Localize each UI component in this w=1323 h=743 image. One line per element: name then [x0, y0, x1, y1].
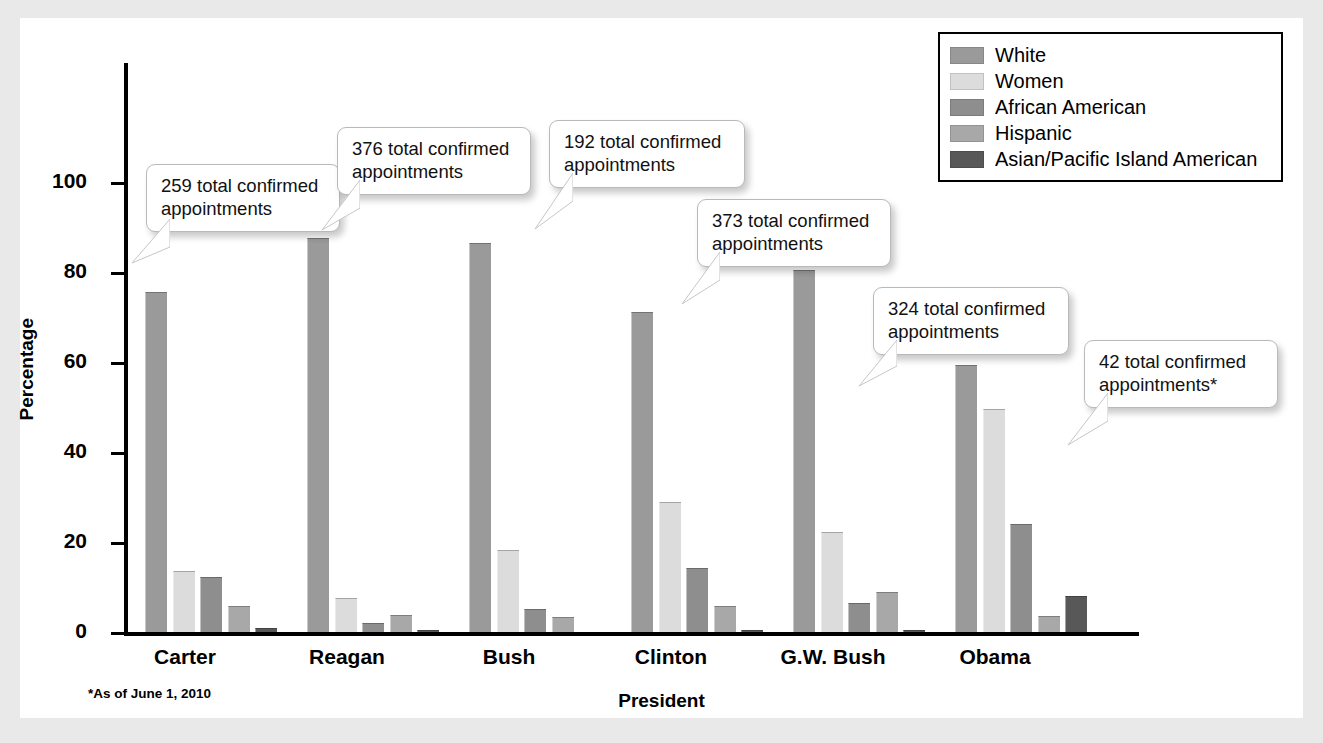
legend-swatch-asian-pacific-island-american-icon [950, 151, 984, 168]
bar-reagan-women [335, 598, 357, 632]
y-tick-100 [111, 182, 124, 185]
bar-obama-white [955, 365, 977, 632]
bar-reagan-african-american [362, 623, 384, 632]
legend-label-asian-pacific-island-american: Asian/Pacific Island American [995, 148, 1257, 171]
y-tick-0 [111, 632, 124, 635]
bar-carter-white [145, 292, 167, 632]
y-axis-title: Percentage [16, 318, 38, 420]
x-axis-line [124, 632, 1139, 636]
legend-swatch-white-icon [950, 47, 984, 64]
legend-item-african-american[interactable]: African American [950, 94, 1271, 120]
footnote-text: *As of June 1, 2010 [88, 686, 211, 701]
x-tick-label-bush: Bush [483, 645, 536, 669]
y-axis-line [124, 63, 128, 634]
bar-obama-women [983, 409, 1005, 632]
bar-obama-hispanic [1038, 616, 1060, 632]
y-tick-60 [111, 362, 124, 365]
bar-reagan-hispanic [390, 615, 412, 632]
bar-clinton-african-american [686, 568, 708, 632]
x-axis-title: President [20, 690, 1303, 712]
y-axis-title-wrap: Percentage [16, 216, 38, 318]
legend-swatch-women-icon [950, 73, 984, 90]
y-tick-label-0: 0 [27, 619, 87, 643]
bar-g-w-bush-african-american [848, 603, 870, 632]
y-tick-label-20: 20 [27, 529, 87, 553]
bar-g-w-bush-white [793, 270, 815, 632]
callout-tail-obama-icon [1066, 389, 1108, 447]
callout-tail-bush-icon [533, 169, 573, 231]
bar-carter-women [173, 571, 195, 632]
x-tick-label-obama: Obama [959, 645, 1030, 669]
bar-reagan-white [307, 238, 329, 632]
bar-clinton-white [631, 312, 653, 632]
callout-tail-clinton-icon [680, 248, 720, 306]
bar-clinton-asian-pacific-island-american [741, 630, 763, 632]
bar-obama-asian-pacific-island-american [1065, 596, 1087, 632]
bar-bush-white [469, 243, 491, 632]
y-tick-40 [111, 452, 124, 455]
bar-g-w-bush-women [821, 532, 843, 632]
x-tick-label-reagan: Reagan [309, 645, 385, 669]
callout-obama: 42 total confirmed appointments* [1084, 340, 1278, 408]
legend-label-african-american: African American [995, 96, 1146, 119]
legend: White Women African American Hispanic As… [938, 32, 1283, 182]
callout-tail-gw-bush-icon [857, 336, 897, 388]
bar-carter-hispanic [228, 606, 250, 632]
callout-carter: 259 total confirmed appointments [146, 164, 340, 232]
legend-item-hispanic[interactable]: Hispanic [950, 120, 1271, 146]
chart-page: 0 20 40 60 80 100 Percentage Carter Reag… [0, 0, 1323, 743]
legend-swatch-hispanic-icon [950, 125, 984, 142]
legend-label-hispanic: Hispanic [995, 122, 1072, 145]
bar-reagan-asian-pacific-island-american [417, 630, 439, 632]
legend-label-white: White [995, 44, 1046, 67]
chart-panel: 0 20 40 60 80 100 Percentage Carter Reag… [20, 18, 1303, 718]
bar-bush-african-american [524, 609, 546, 632]
legend-label-women: Women [995, 70, 1064, 93]
bar-carter-asian-pacific-island-american [255, 628, 277, 632]
bar-clinton-hispanic [714, 606, 736, 632]
bar-obama-african-american [1010, 524, 1032, 632]
legend-item-asian-pacific-island-american[interactable]: Asian/Pacific Island American [950, 146, 1271, 172]
bar-bush-hispanic [552, 617, 574, 632]
callout-tail-reagan-icon [320, 176, 360, 232]
callout-reagan: 376 total confirmed appointments [337, 127, 531, 195]
bar-g-w-bush-asian-pacific-island-american [903, 630, 925, 632]
y-tick-label-40: 40 [27, 439, 87, 463]
callout-tail-carter-icon [130, 213, 170, 265]
callout-gw-bush: 324 total confirmed appointments [873, 287, 1069, 355]
legend-item-white[interactable]: White [950, 42, 1271, 68]
bar-clinton-women [659, 502, 681, 633]
y-tick-20 [111, 542, 124, 545]
callout-clinton: 373 total confirmed appointments [697, 199, 891, 267]
y-tick-label-100: 100 [27, 169, 87, 193]
bar-g-w-bush-hispanic [876, 592, 898, 632]
callout-bush: 192 total confirmed appointments [549, 120, 745, 188]
y-tick-80 [111, 272, 124, 275]
x-tick-label-gw-bush: G.W. Bush [781, 645, 886, 669]
bar-bush-women [497, 550, 519, 632]
legend-swatch-african-american-icon [950, 99, 984, 116]
bar-carter-african-american [200, 577, 222, 632]
legend-item-women[interactable]: Women [950, 68, 1271, 94]
x-tick-label-clinton: Clinton [635, 645, 707, 669]
x-tick-label-carter: Carter [154, 645, 216, 669]
